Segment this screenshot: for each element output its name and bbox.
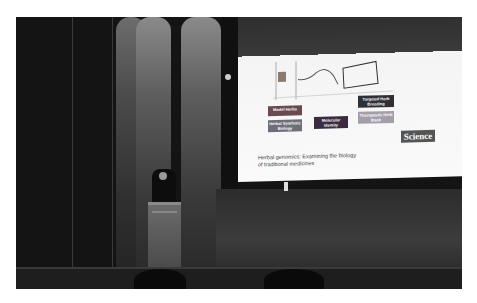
stage-light — [284, 182, 288, 191]
wall-line — [112, 17, 113, 272]
audience-head — [134, 269, 186, 289]
slide-box-herbal-synthetic-biology: Herbal Synthetic Biology — [268, 119, 302, 132]
slide-caption: Herbal genomics: Examining the biology o… — [258, 152, 368, 169]
wall-line — [72, 17, 73, 272]
speaker-person — [152, 169, 176, 205]
lower-wall — [216, 189, 462, 274]
slide-content: Model Herbs Targeted Herb Breeding Herba… — [238, 51, 462, 182]
stage-photo: Model Herbs Targeted Herb Breeding Herba… — [16, 17, 462, 289]
slide-box-molecular-identity: Molecular Identity — [314, 116, 348, 129]
slide-box-model-herbs: Model Herbs — [268, 105, 302, 116]
audience-head — [264, 269, 324, 289]
wall-light — [225, 74, 231, 80]
curtain-panel — [181, 17, 221, 272]
science-logo: Science — [401, 130, 435, 143]
speaker-face — [159, 172, 167, 180]
slide-box-therapeutic-herb-bank: Therapeutic Herb Bank — [358, 111, 394, 124]
podium-label — [152, 211, 177, 213]
caption-line-2: of traditional medicines — [258, 159, 368, 169]
slide-box-targeted-herb-breeding: Targeted Herb Breeding — [358, 95, 394, 108]
podium — [148, 202, 181, 270]
projection-screen: Model Herbs Targeted Herb Breeding Herba… — [238, 17, 462, 182]
stage-floor — [16, 267, 462, 289]
